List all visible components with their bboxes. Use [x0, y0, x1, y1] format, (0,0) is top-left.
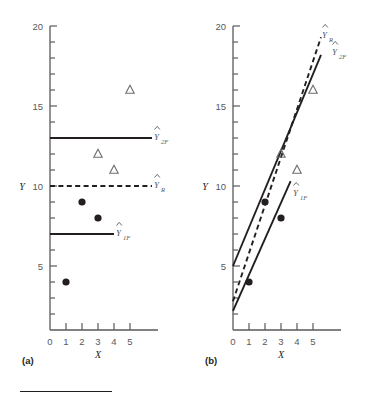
open-triangle-markers [94, 85, 134, 173]
y-tick-label: 15 [32, 101, 43, 112]
hat-icon [333, 41, 338, 44]
y-ticks-a [50, 26, 57, 314]
series-label-text: Y [116, 228, 122, 238]
series-label-yr: Y R [154, 174, 165, 193]
x-tick-label: 5 [310, 336, 315, 347]
data-point-triangle [126, 85, 134, 93]
fitted-line-y2f [233, 55, 321, 266]
series-label-y1f: Y 1F [116, 222, 131, 241]
data-point-triangle [110, 165, 118, 173]
y-ticks-b [233, 26, 240, 314]
series-label-text: Y [332, 47, 338, 57]
x-tick-label: 4 [111, 336, 116, 347]
open-triangle-markers [277, 85, 317, 173]
y-tick-label: 10 [215, 181, 226, 192]
filled-circle-markers [245, 198, 284, 285]
panel-a-caption: (a) [22, 355, 34, 366]
fitted-line-yr [233, 37, 321, 301]
x-ticks-a [66, 323, 130, 330]
plot-b-svg: 20 15 10 5 Y 0 1 2 3 4 5 X Y R [183, 0, 373, 360]
x-tick-label: 0 [230, 336, 235, 347]
x-tick-label: 1 [63, 336, 68, 347]
y-tick-label: 20 [32, 21, 43, 32]
series-label-subscript: 1F [123, 234, 131, 241]
filled-circle-markers [62, 198, 101, 285]
x-tick-label: 3 [95, 336, 100, 347]
hat-icon [323, 24, 328, 27]
data-point-circle [245, 278, 252, 285]
x-tick-label: 3 [278, 336, 283, 347]
series-label-y2f: Y 2F [332, 41, 347, 60]
y-tick-label: 5 [221, 261, 226, 272]
series-label-subscript: 1F [300, 194, 308, 201]
data-point-circle [94, 214, 101, 221]
x-tick-label: 4 [294, 336, 299, 347]
chart-panel-b: 20 15 10 5 Y 0 1 2 3 4 5 X Y R [183, 0, 373, 360]
data-point-circle [277, 214, 284, 221]
series-label-subscript: 2F [161, 138, 169, 145]
y-tick-label: 20 [215, 21, 226, 32]
x-axis-title: X [277, 349, 285, 360]
series-label-text: Y [154, 180, 160, 190]
series-label-subscript: R [160, 186, 165, 193]
chart-panel-a: 20 15 10 5 Y 0 1 2 3 4 5 X [0, 0, 190, 360]
x-tick-label: 2 [262, 336, 267, 347]
y-tick-label: 15 [215, 101, 226, 112]
x-tick-label: 5 [127, 336, 132, 347]
hat-icon [155, 174, 160, 177]
x-tick-label: 2 [79, 336, 84, 347]
series-label-yr: Y R [322, 24, 333, 43]
series-label-y2f: Y 2F [154, 126, 169, 145]
x-axis-title: X [94, 349, 102, 360]
plot-a-svg: 20 15 10 5 Y 0 1 2 3 4 5 X [0, 0, 190, 360]
y-tick-label: 10 [32, 181, 43, 192]
hat-icon [294, 182, 299, 185]
footer-rule [20, 391, 112, 392]
series-label-text: Y [154, 132, 160, 142]
panel-b-caption: (b) [205, 355, 217, 366]
y-axis-title: Y [202, 181, 209, 192]
data-point-circle [261, 198, 268, 205]
hat-icon [155, 126, 160, 129]
x-tick-label: 0 [47, 336, 52, 347]
data-point-triangle [293, 165, 301, 173]
y-axis-title: Y [19, 181, 26, 192]
series-label-subscript: 2F [339, 53, 347, 60]
series-label-text: Y [293, 188, 299, 198]
series-label-subscript: R [328, 36, 333, 43]
series-label-y1f: Y 1F [293, 182, 308, 201]
x-tick-label: 1 [246, 336, 251, 347]
x-ticks-b [249, 323, 313, 330]
data-point-circle [62, 278, 69, 285]
hat-icon [117, 222, 122, 225]
data-point-triangle [309, 85, 317, 93]
series-label-text: Y [322, 30, 328, 40]
data-point-circle [78, 198, 85, 205]
y-tick-label: 5 [38, 261, 43, 272]
data-point-triangle [94, 149, 102, 157]
